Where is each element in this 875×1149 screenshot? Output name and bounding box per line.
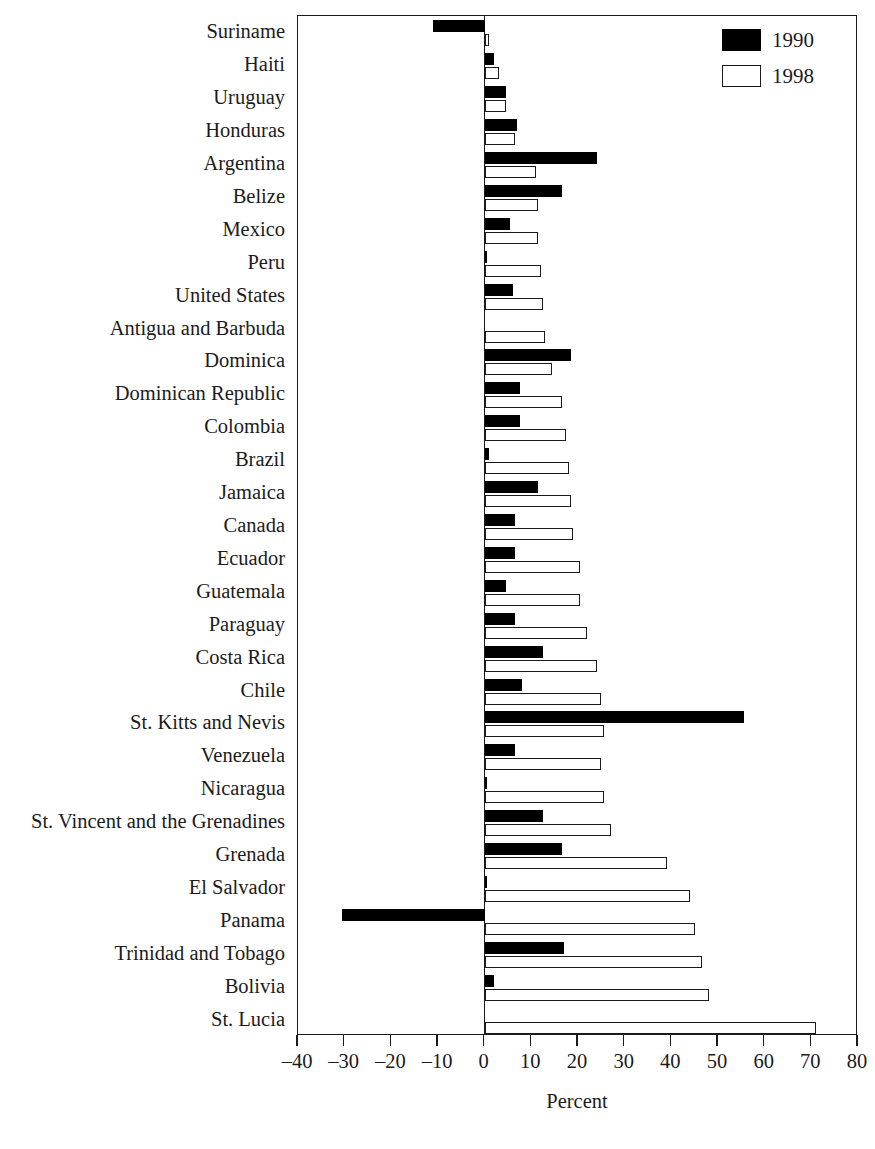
bar-1990 xyxy=(485,251,487,263)
bar-1990 xyxy=(342,909,484,921)
category-label: Peru xyxy=(0,252,285,273)
bar-1990 xyxy=(485,86,506,98)
x-axis-tick xyxy=(763,1035,765,1046)
bar-1998 xyxy=(485,1022,816,1034)
bar-1998 xyxy=(485,693,602,705)
category-label: Grenada xyxy=(0,844,285,865)
bar-1998 xyxy=(485,67,499,79)
plot-area xyxy=(297,15,857,1035)
legend-swatch-1990-icon xyxy=(722,29,761,51)
bar-1990 xyxy=(485,744,515,756)
bar-1998 xyxy=(485,265,541,277)
x-axis-tick-label: 70 xyxy=(800,1051,821,1072)
bar-1998 xyxy=(485,429,567,441)
bar-1990 xyxy=(485,613,515,625)
bar-1998 xyxy=(485,100,506,112)
x-axis-tick-label: –30 xyxy=(328,1051,359,1072)
bar-1998 xyxy=(485,331,546,343)
bar-1990 xyxy=(485,152,597,164)
bar-1998 xyxy=(485,133,515,145)
bar-1998 xyxy=(485,791,604,803)
category-label: St. Lucia xyxy=(0,1009,285,1030)
bar-1990 xyxy=(485,942,564,954)
x-axis-tick-label: 40 xyxy=(660,1051,681,1072)
category-label: Ecuador xyxy=(0,548,285,569)
category-label: Paraguay xyxy=(0,614,285,635)
legend-label-1998: 1998 xyxy=(772,66,814,87)
x-axis: –40–30–20–1001020304050607080 xyxy=(297,1035,857,1036)
category-label: Antigua and Barbuda xyxy=(0,318,285,339)
x-axis-tick xyxy=(623,1035,625,1046)
category-label: Honduras xyxy=(0,120,285,141)
x-axis-tick xyxy=(670,1035,672,1046)
bar-1990 xyxy=(485,448,490,460)
bar-1998 xyxy=(485,989,709,1001)
bar-1998 xyxy=(485,495,571,507)
bar-1998 xyxy=(485,462,569,474)
bar-1998 xyxy=(485,857,667,869)
bar-1998 xyxy=(485,363,553,375)
x-axis-tick-label: 30 xyxy=(613,1051,634,1072)
bar-1990 xyxy=(485,646,543,658)
x-axis-tick-label: –40 xyxy=(282,1051,313,1072)
bar-1998 xyxy=(485,758,602,770)
category-label: Argentina xyxy=(0,153,285,174)
bar-1998 xyxy=(485,660,597,672)
x-axis-tick xyxy=(343,1035,345,1046)
category-label: Brazil xyxy=(0,449,285,470)
bar-1990 xyxy=(485,284,513,296)
x-axis-tick xyxy=(530,1035,532,1046)
category-label: Belize xyxy=(0,186,285,207)
category-label: Mexico xyxy=(0,219,285,240)
x-axis-tick-label: 60 xyxy=(753,1051,774,1072)
category-label: Uruguay xyxy=(0,87,285,108)
x-axis-tick xyxy=(856,1035,858,1046)
x-axis-tick-label: –10 xyxy=(422,1051,453,1072)
bar-1998 xyxy=(485,561,581,573)
bar-1998 xyxy=(485,594,581,606)
bar-1998 xyxy=(485,166,536,178)
bar-1990 xyxy=(433,20,484,32)
category-label: Trinidad and Tobago xyxy=(0,943,285,964)
bar-1998 xyxy=(485,956,702,968)
bar-1998 xyxy=(485,528,574,540)
category-axis-labels: SurinameHaitiUruguayHondurasArgentinaBel… xyxy=(0,15,285,1035)
bar-1990 xyxy=(485,119,518,131)
category-label: Haiti xyxy=(0,54,285,75)
x-axis-tick xyxy=(483,1035,485,1046)
x-axis-tick xyxy=(390,1035,392,1046)
x-axis-tick xyxy=(716,1035,718,1046)
legend: 1990 1998 xyxy=(722,22,842,94)
bar-1990 xyxy=(485,580,506,592)
category-label: St. Kitts and Nevis xyxy=(0,712,285,733)
category-label: Dominica xyxy=(0,350,285,371)
bar-1990 xyxy=(485,514,515,526)
category-label: Panama xyxy=(0,910,285,931)
x-axis-tick xyxy=(436,1035,438,1046)
bar-1990 xyxy=(485,777,487,789)
bar-1990 xyxy=(485,415,520,427)
bar-1990 xyxy=(485,218,511,230)
bar-1998 xyxy=(485,890,690,902)
category-label: El Salvador xyxy=(0,877,285,898)
legend-item-1998: 1998 xyxy=(722,58,842,94)
bar-1990 xyxy=(485,481,539,493)
bar-1990 xyxy=(485,876,487,888)
bar-1990 xyxy=(485,185,562,197)
bar-1990 xyxy=(485,711,744,723)
bar-1998 xyxy=(485,34,490,46)
category-label: Chile xyxy=(0,680,285,701)
bar-1998 xyxy=(485,298,543,310)
category-label: United States xyxy=(0,285,285,306)
category-label: Jamaica xyxy=(0,482,285,503)
legend-swatch-1998-icon xyxy=(722,65,761,87)
category-label: Bolivia xyxy=(0,976,285,997)
x-axis-tick-label: 80 xyxy=(847,1051,868,1072)
bar-1998 xyxy=(485,199,539,211)
bar-chart: SurinameHaitiUruguayHondurasArgentinaBel… xyxy=(0,0,875,1149)
category-label: Canada xyxy=(0,515,285,536)
x-axis-tick-label: –20 xyxy=(375,1051,406,1072)
x-axis-tick xyxy=(810,1035,812,1046)
x-axis-tick xyxy=(576,1035,578,1046)
category-label: Venezuela xyxy=(0,745,285,766)
